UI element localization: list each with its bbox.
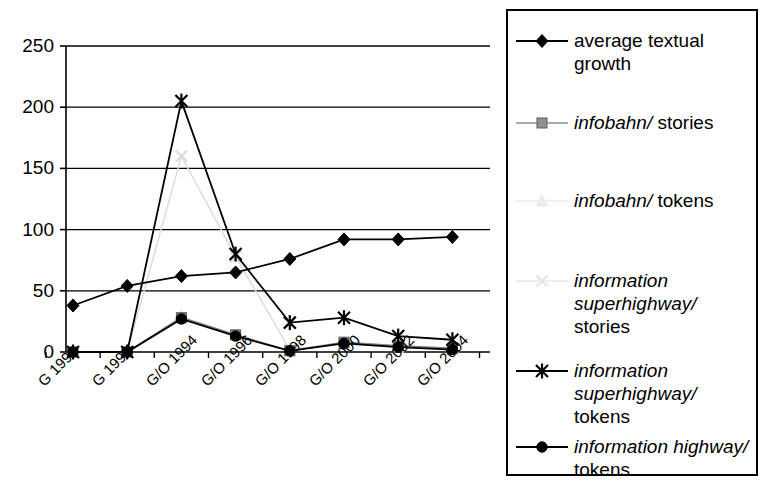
y-tick-label: 100 xyxy=(6,220,54,239)
series-0 xyxy=(67,230,458,312)
legend-label-2: infobahn/ tokens xyxy=(572,189,713,212)
legend-item-2[interactable]: infobahn/ tokens xyxy=(508,189,760,212)
legend-label-plain-0: average textual growth xyxy=(574,30,704,74)
y-tick-label: 150 xyxy=(6,158,54,177)
y-tick-label: 250 xyxy=(6,36,54,55)
legend-label-plain-4: tokens xyxy=(574,406,630,427)
legend-label-4: information superhighway/ tokens xyxy=(572,359,697,428)
legend-label-plain-3: stories xyxy=(574,316,630,337)
y-tick-label: 0 xyxy=(6,342,54,361)
legend-label-italic-4: information superhighway/ xyxy=(574,360,697,404)
legend-label-italic-5: information highway/ xyxy=(574,436,748,457)
legend-label-italic-2: infobahn/ xyxy=(574,190,652,211)
legend-item-3[interactable]: information superhighway/ stories xyxy=(508,269,760,338)
legend: average textual growthinfobahn/ storiesi… xyxy=(506,9,758,476)
legend-marker-diamond-icon xyxy=(514,30,572,52)
legend-marker-square-icon xyxy=(514,112,572,134)
series-3 xyxy=(68,151,458,358)
legend-marker-asterisk-icon xyxy=(514,360,572,382)
y-tick-label: 50 xyxy=(6,281,54,300)
axis-lines xyxy=(46,46,480,358)
legend-item-1[interactable]: infobahn/ stories xyxy=(508,111,760,134)
legend-label-plain-2: tokens xyxy=(652,190,713,211)
plot-area: 250200150100500 G 1990G 1992G/O 1994G/O … xyxy=(0,0,500,495)
gridlines xyxy=(66,46,490,352)
legend-label-italic-1: infobahn/ xyxy=(574,112,652,133)
legend-item-4[interactable]: information superhighway/ tokens xyxy=(508,359,760,428)
legend-label-0: average textual growth xyxy=(572,29,704,75)
chart-figure: 250200150100500 G 1990G 1992G/O 1994G/O … xyxy=(0,0,770,495)
legend-label-plain-5: tokens xyxy=(574,459,630,480)
legend-marker-circle-icon xyxy=(514,436,572,458)
legend-label-italic-3: information superhighway/ xyxy=(574,270,697,314)
series-4 xyxy=(67,94,458,360)
legend-label-1: infobahn/ stories xyxy=(572,111,713,134)
plot-svg xyxy=(0,0,500,495)
legend-marker-cross-icon xyxy=(514,270,572,292)
y-tick-label: 200 xyxy=(6,97,54,116)
legend-label-plain-1: stories xyxy=(652,112,713,133)
legend-item-0[interactable]: average textual growth xyxy=(508,29,760,75)
legend-label-3: information superhighway/ stories xyxy=(572,269,697,338)
legend-label-5: information highway/ tokens xyxy=(572,435,748,481)
legend-marker-triangle-icon xyxy=(514,190,572,212)
legend-item-5[interactable]: information highway/ tokens xyxy=(508,435,760,481)
